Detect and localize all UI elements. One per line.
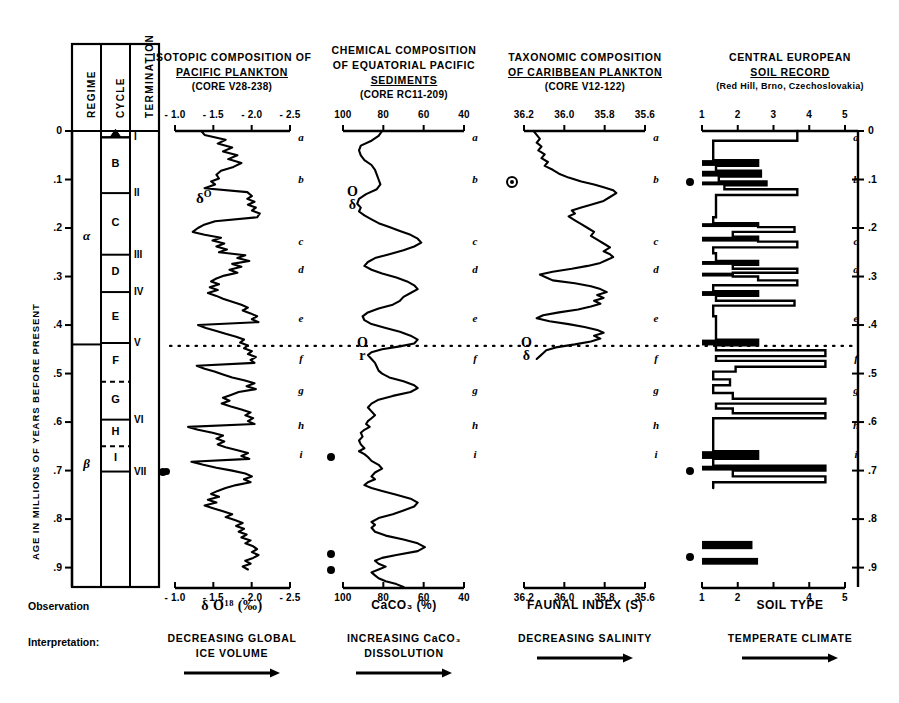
age-tick-right-9: .9: [868, 561, 894, 573]
cycle-cell-G: G: [101, 393, 130, 405]
marker-dot-soil-0: [686, 178, 694, 186]
termination-II: II: [134, 187, 160, 198]
age-tick-right-3: .3: [868, 270, 894, 282]
stage-letter-b-panel2: b: [648, 173, 664, 185]
stage-letter-h-panel3: h: [848, 419, 864, 431]
regime-cell-α: α: [72, 228, 101, 244]
marker-dot-termination-vii: [163, 468, 170, 475]
stage-letter-a-panel3: a: [848, 131, 864, 143]
cycle-cell-I: I: [101, 451, 130, 463]
age-tick-right-7: .7: [868, 464, 894, 476]
row-label-interpretation: Interpretation:: [28, 636, 99, 648]
stage-letter-g-panel1: g: [467, 384, 483, 396]
stage-letter-a-panel2: a: [648, 131, 664, 143]
soil-horizon-bar-8: [702, 340, 758, 346]
termination-I: I: [134, 131, 160, 142]
stage-letter-e-panel2: e: [648, 312, 664, 324]
axis-tick-top-soil-4: 5: [815, 109, 875, 120]
stage-letter-d-panel0: d: [293, 263, 309, 275]
age-tick-left-4: .4: [30, 318, 62, 330]
stage-letter-e-panel1: e: [467, 312, 483, 324]
stage-letter-a-panel0: a: [293, 131, 309, 143]
cycle-cell-B: B: [101, 157, 130, 169]
stage-letter-b-panel0: b: [293, 173, 309, 185]
age-tick-left-1: .1: [30, 173, 62, 185]
marker-dot-chemical-0: [327, 453, 335, 461]
row-label-observation: Observation: [28, 600, 89, 612]
panel-title-soil-line1: SOIL RECORD: [620, 65, 899, 79]
cycle-cell-D: D: [101, 265, 130, 277]
cycle-cell-C: C: [101, 216, 130, 228]
delta-o-symbol-chemical-2: Or: [357, 336, 368, 362]
stage-letter-e-panel3: e: [848, 312, 864, 324]
marker-dot-chemical-2: [327, 566, 335, 574]
soil-horizon-bar-3: [702, 223, 758, 227]
soil-horizon-bar-6: [702, 273, 733, 277]
termination-VII: VII: [134, 466, 160, 477]
axis-tick-top-chemical-3: 40: [434, 109, 494, 120]
age-tick-left-8: .8: [30, 512, 62, 524]
age-tick-right-6: .6: [868, 415, 894, 427]
stage-letter-i-panel2: i: [648, 448, 664, 460]
age-tick-left-7: .7: [30, 464, 62, 476]
age-tick-right-8: .8: [868, 512, 894, 524]
stage-letter-i-panel1: i: [467, 448, 483, 460]
marker-dot-soil-2: [686, 553, 694, 561]
soil-horizon-bar-12: [702, 558, 758, 565]
marker-ring-center: [510, 180, 514, 184]
cycle-cell-H: H: [101, 425, 130, 437]
stage-letter-d-panel1: d: [467, 263, 483, 275]
soil-horizon-bar-1: [702, 171, 761, 177]
delta-o-symbol-isotopic: δO: [196, 188, 212, 204]
stage-letter-h-panel2: h: [648, 419, 664, 431]
panel-title-soil-line0: CENTRAL EUROPEAN: [620, 50, 899, 64]
stage-letter-a-panel1: a: [467, 131, 483, 143]
age-tick-left-5: .5: [30, 367, 62, 379]
curve-taxonomic: [534, 131, 617, 359]
soil-horizon-bar-5: [702, 261, 758, 265]
stage-letter-b-panel3: b: [848, 173, 864, 185]
age-tick-right-4: .4: [868, 318, 894, 330]
soil-horizon-bar-7: [702, 291, 758, 296]
soil-horizon-bar-11: [702, 541, 752, 549]
age-tick-right-1: .1: [868, 173, 894, 185]
soil-horizon-bar-0: [702, 160, 758, 166]
stage-letter-h-panel0: h: [293, 419, 309, 431]
age-tick-left-6: .6: [30, 415, 62, 427]
stage-letter-d-panel3: d: [848, 263, 864, 275]
stage-letter-g-panel0: g: [293, 384, 309, 396]
stage-letter-b-panel1: b: [467, 173, 483, 185]
termination-III: III: [134, 249, 160, 260]
soil-horizon-bar-2: [702, 181, 766, 185]
soil-horizon-bar-9: [702, 451, 758, 459]
stage-letter-g-panel2: g: [648, 384, 664, 396]
marker-dot-chemical-1: [327, 550, 335, 558]
soil-horizon-bar-10: [702, 466, 825, 471]
termination-IV: IV: [134, 286, 160, 297]
age-tick-right-2: .2: [868, 221, 894, 233]
age-tick-right-0: 0: [868, 124, 894, 136]
stage-letter-f-panel2: f: [648, 352, 664, 364]
delta-o-symbol-chemical: Oδ: [347, 185, 358, 211]
age-tick-right-5: .5: [868, 367, 894, 379]
stage-letter-c-panel1: c: [467, 235, 483, 247]
cycle-cell-F: F: [101, 354, 130, 366]
age-tick-left-9: .9: [30, 561, 62, 573]
cycle-cell-E: E: [101, 310, 130, 322]
stage-letter-e-panel0: e: [293, 312, 309, 324]
stage-letter-f-panel1: f: [467, 352, 483, 364]
age-tick-left-3: .3: [30, 270, 62, 282]
stage-letter-c-panel0: c: [293, 235, 309, 247]
termination-VI: VI: [134, 414, 160, 425]
soil-horizon-bar-4: [702, 237, 758, 242]
delta-o-symbol-taxonomic: Oδ: [521, 336, 532, 362]
age-tick-left-0: 0: [30, 124, 62, 136]
marker-ring-taxonomic-0: [506, 176, 518, 188]
stage-letter-g-panel3: g: [848, 384, 864, 396]
stage-letter-i-panel0: i: [293, 448, 309, 460]
stage-letter-c-panel2: c: [648, 235, 664, 247]
interpretation-chemical-line1: DISSOLUTION: [254, 646, 554, 661]
stage-letter-h-panel1: h: [467, 419, 483, 431]
axis-tick-top-isotopic-3: - 2.5: [260, 109, 320, 120]
panel-core-label-soil: (Red Hill, Brno, Czechoslovakia): [620, 81, 899, 91]
